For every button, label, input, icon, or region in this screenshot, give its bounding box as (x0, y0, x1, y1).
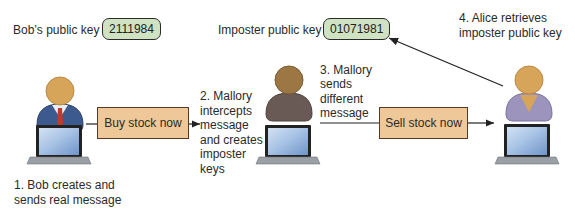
imposter-public-key-badge: 01071981 (323, 18, 390, 40)
mallory-laptop-icon (256, 125, 320, 164)
step3-line1: 3. Mallory (320, 63, 372, 78)
step2-line1: 2. Mallory (200, 89, 252, 104)
step2-line5: imposter (200, 147, 246, 162)
step3-line3: different (320, 92, 363, 107)
alice-person-icon (506, 66, 552, 121)
step2-line3: message (200, 118, 249, 133)
step4-line2: imposter public key (459, 26, 562, 41)
bob-laptop-icon (27, 125, 91, 164)
alice-retrieves-key-arrow (389, 38, 503, 86)
real-message-box: Buy stock now (97, 107, 189, 139)
mallory-person-icon (266, 66, 312, 121)
step2-line2: intercepts (200, 104, 252, 119)
step3-line4: message (320, 106, 369, 121)
step2-line6: keys (200, 162, 225, 177)
bob-key-label: Bob’s public key (13, 23, 100, 38)
bob-public-key-badge: 2111984 (102, 18, 161, 40)
imposter-key-label: Imposter public key (218, 23, 321, 38)
step1-caption-line2: sends real message (14, 193, 121, 208)
alice-laptop-icon (495, 124, 559, 164)
bob-person-icon (37, 77, 83, 132)
step1-caption-line1: 1. Bob creates and (14, 178, 115, 193)
fake-message-box: Sell stock now (379, 107, 468, 139)
step2-line4: and creates (200, 133, 263, 148)
step4-line1: 4. Alice retrieves (459, 11, 547, 26)
step3-line2: sends (320, 77, 352, 92)
